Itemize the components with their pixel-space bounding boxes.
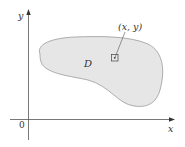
region-label: D — [83, 58, 92, 69]
x-axis-label: x — [168, 123, 174, 134]
diagram-canvas: (x, y) D y x 0 — [0, 0, 185, 147]
region-d — [39, 37, 162, 107]
x-axis — [10, 117, 175, 121]
point-label: (x, y) — [118, 21, 142, 32]
x-axis-arrow-icon — [169, 117, 175, 121]
point-dot — [114, 57, 116, 59]
y-axis-arrow-icon — [26, 9, 30, 15]
origin-label: 0 — [19, 120, 25, 130]
y-axis — [26, 9, 30, 140]
y-axis-label: y — [17, 10, 24, 21]
